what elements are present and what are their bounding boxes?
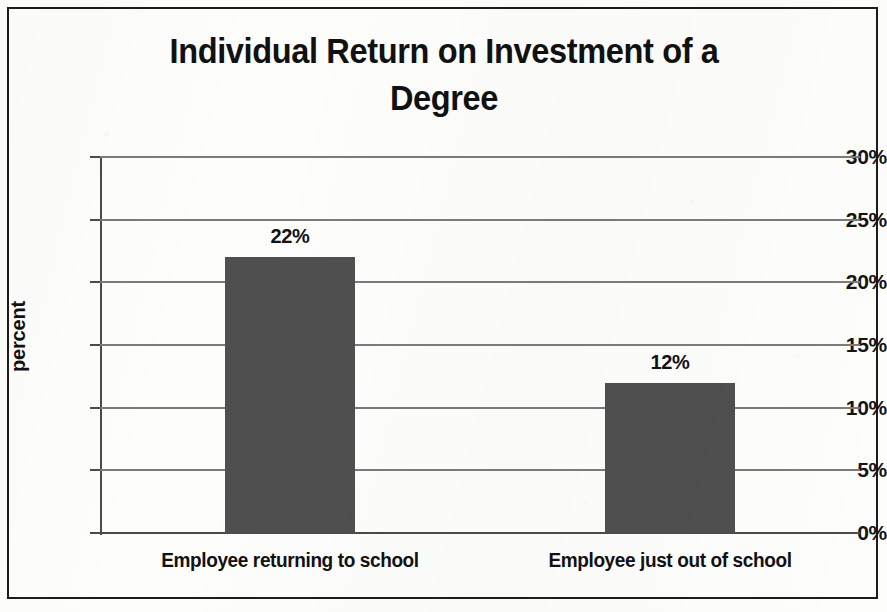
bar-value-label: 12% <box>610 351 730 374</box>
bar <box>605 383 735 533</box>
y-axis-label-container: percent <box>0 157 40 533</box>
gridline <box>100 219 860 221</box>
chart-page: Individual Return on Investment of a Deg… <box>0 0 887 612</box>
plot-area <box>100 157 860 533</box>
x-axis-category-label: Employee returning to school <box>110 549 471 572</box>
y-axis-title: percent <box>7 257 30 417</box>
bar <box>225 257 355 533</box>
gridline <box>100 407 860 409</box>
x-axis-category-label: Employee just out of school <box>490 549 851 572</box>
gridline <box>100 281 860 283</box>
gridline <box>100 469 860 471</box>
chart-title: Individual Return on Investment of a Deg… <box>132 27 757 121</box>
gridline <box>100 532 860 534</box>
bar-value-label: 22% <box>230 225 350 248</box>
gridline <box>100 156 860 158</box>
gridline <box>100 344 860 346</box>
